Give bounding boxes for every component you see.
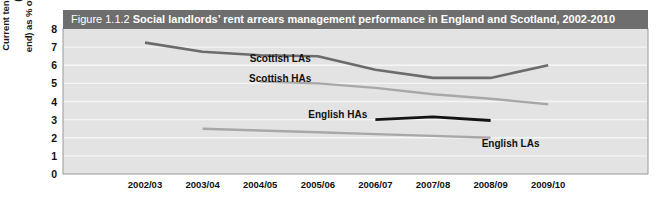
x-tick-label: 2005/06 [301,179,335,190]
y-tick-label: 0 [51,168,57,180]
y-tick-label: 1 [51,150,57,162]
y-tick-label: 8 [51,23,57,35]
series-label: Scottish LAs [250,53,312,64]
x-tick-label: 2004/05 [243,179,278,190]
y-tick-label: 6 [51,59,57,71]
y-tick-label: 2 [51,132,57,144]
y-tick-label: 7 [51,41,57,53]
x-tick-label: 2006/07 [358,179,392,190]
x-axis-ticks: 2002/032003/042004/052005/062006/072007/… [128,179,566,190]
y-tick-label: 5 [51,77,57,89]
figure-title-bar: Figure 1.1.2 Social landlords’ rent arre… [63,10,648,29]
series-label: English LAs [482,138,540,149]
x-tick-label: 2007/08 [416,179,450,190]
y-tick-label: 3 [51,114,57,126]
y-tick-label: 4 [51,96,57,108]
y-axis-ticks: 012345678 [51,23,57,180]
x-tick-label: 2002/03 [128,179,162,190]
x-tick-label: 2009/10 [531,179,565,190]
figure-number: Figure 1.1.2 [71,13,130,25]
figure-container: Current tenants rent arrears (year- end)… [0,0,656,204]
chart-canvas: 012345678 2002/032003/042004/052005/0620… [0,0,656,204]
x-tick-label: 2008/09 [473,179,507,190]
series-label: English HAs [308,109,367,120]
series-label: Scottish HAs [249,73,312,84]
page-title: Social landlords’ rent arrears managemen… [133,13,615,25]
x-tick-label: 2003/04 [185,179,220,190]
